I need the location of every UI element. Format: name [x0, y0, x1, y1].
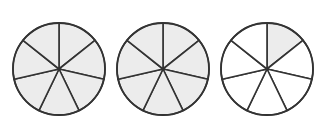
- fraction-circles-canvas: [0, 0, 314, 123]
- fraction-circle-3: [221, 23, 313, 115]
- fraction-circle-1: [13, 23, 105, 115]
- fraction-diagram: [0, 0, 314, 123]
- fraction-circle-2: [117, 23, 209, 115]
